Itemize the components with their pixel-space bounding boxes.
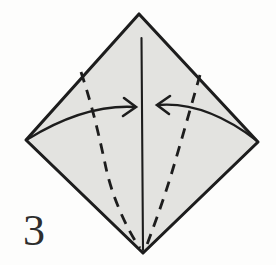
center-crease-line [142,38,144,250]
step-number-label: 3 [23,209,45,253]
origami-step-figure: 3 [0,0,276,265]
